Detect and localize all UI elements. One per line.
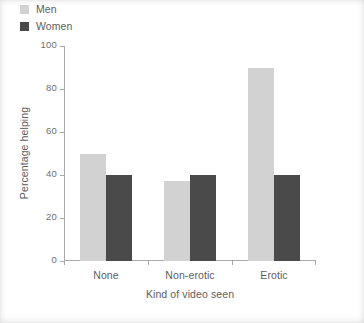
y-tick-100: 100 <box>64 46 65 47</box>
legend-item-women: Women <box>20 19 73 33</box>
y-tick-label: 40 <box>46 168 57 179</box>
chart-legend: Men Women <box>20 2 73 36</box>
x-tick-mark <box>232 261 233 265</box>
chart-figure: Men Women 020406080100 NoneNon-eroticEro… <box>0 0 364 323</box>
bar-none-women <box>106 175 132 261</box>
legend-label-women: Women <box>36 20 73 32</box>
y-tick-mark <box>60 218 64 219</box>
bar-non-erotic-women <box>190 175 216 261</box>
y-tick-80: 80 <box>64 89 65 90</box>
y-tick-20: 20 <box>64 218 65 219</box>
y-tick-label: 60 <box>46 125 57 136</box>
legend-item-men: Men <box>20 2 73 16</box>
bar-erotic-women <box>274 175 300 261</box>
plot-area: 020406080100 NoneNon-eroticErotic <box>64 46 316 261</box>
y-tick-label: 100 <box>41 39 57 50</box>
y-tick-label: 80 <box>46 82 57 93</box>
x-label-none: None <box>93 269 119 281</box>
x-tick-mark <box>64 261 65 265</box>
y-tick-60: 60 <box>64 132 65 133</box>
y-tick-mark <box>60 46 64 47</box>
bar-erotic-men <box>248 68 274 262</box>
y-axis-title: Percentage helping <box>18 107 30 199</box>
y-tick-label: 20 <box>46 211 57 222</box>
x-tick-mark <box>315 261 316 265</box>
y-tick-40: 40 <box>64 175 65 176</box>
x-axis-title: Kind of video seen <box>64 288 316 300</box>
legend-swatch-women <box>20 22 29 31</box>
bar-non-erotic-men <box>164 181 190 261</box>
x-label-non-erotic: Non-erotic <box>165 269 214 281</box>
x-tick-mark <box>148 261 149 265</box>
y-tick-label: 0 <box>52 254 57 265</box>
legend-swatch-men <box>20 5 29 14</box>
legend-label-men: Men <box>36 3 57 15</box>
y-axis-spine <box>64 46 65 261</box>
y-tick-mark <box>60 132 64 133</box>
y-tick-mark <box>60 89 64 90</box>
y-tick-mark <box>60 175 64 176</box>
bar-none-men <box>80 154 106 262</box>
x-label-erotic: Erotic <box>260 269 287 281</box>
